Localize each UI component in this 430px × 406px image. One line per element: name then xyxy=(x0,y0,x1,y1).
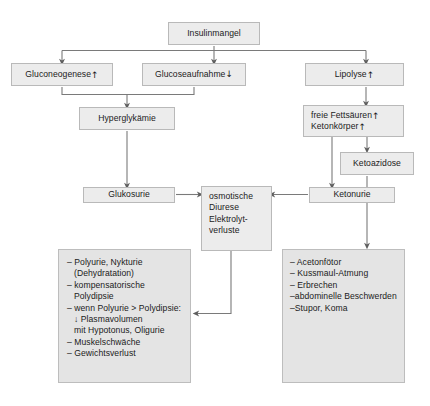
list-item: – kompensatorische xyxy=(67,280,184,291)
node-gluconeogenese-label: Gluconeogenese xyxy=(25,69,91,79)
node-ketonkoerper-row: Ketonkörper↑ xyxy=(311,121,397,132)
node-osmotische-diurese-line-1: osmotische xyxy=(209,191,253,201)
node-glucoseaufnahme-content: Glucoseaufnahme↓ xyxy=(155,69,233,80)
node-freie-fettsaeuren-label: freie Fettsäuren xyxy=(311,110,372,120)
node-gluconeogenese[interactable]: Gluconeogenese↑ xyxy=(11,63,113,86)
increase-arrow-icon: ↑ xyxy=(372,111,380,121)
node-hyperglykaemie-label: Hyperglykämie xyxy=(98,113,155,124)
node-osmotische-diurese-line-3: Elektrolyt- xyxy=(209,214,248,224)
flowchart-diagram: Insulinmangel Gluconeogenese↑ Glucoseauf… xyxy=(0,0,430,406)
node-freie-fettsaeuren-ketonkoerper[interactable]: freie Fettsäuren↑ Ketonkörper↑ xyxy=(303,105,404,137)
node-insulinmangel-label: Insulinmangel xyxy=(187,28,241,39)
node-osmotische-diurese-line-2: Diurese xyxy=(209,202,239,212)
list-item: mit Hypotonus, Oligurie xyxy=(67,325,184,336)
node-lipolyse-label: Lipolyse xyxy=(335,69,367,79)
list-item: – Kussmaul-Atmung xyxy=(290,268,399,279)
list-item: –abdominelle Beschwerden xyxy=(290,291,399,302)
node-freie-fettsaeuren-row: freie Fettsäuren↑ xyxy=(311,110,397,121)
node-lipolyse[interactable]: Lipolyse↑ xyxy=(305,63,404,86)
node-ketonkoerper-label: Ketonkörper xyxy=(311,121,358,131)
list-item: – Acetonfötor xyxy=(290,257,399,268)
list-item: – Muskelschwäche xyxy=(67,337,184,348)
node-ketoazidose[interactable]: Ketoazidose xyxy=(340,152,414,175)
node-gluconeogenese-content: Gluconeogenese↑ xyxy=(25,69,98,80)
list-item: (Dehydratation) xyxy=(67,268,184,279)
left-symptom-box[interactable]: – Polyurie, Nykturie (Dehydratation) – k… xyxy=(58,249,191,383)
list-item: – Polyurie, Nykturie xyxy=(67,257,184,268)
node-ketoazidose-label: Ketoazidose xyxy=(353,158,401,169)
edge-osmotische-diurese-to-left-symptoms xyxy=(196,251,231,314)
list-item: Polydipsie xyxy=(67,291,184,302)
list-item: – Gewichtsverlust xyxy=(67,348,184,359)
list-item: – Erbrechen xyxy=(290,280,399,291)
list-item: – wenn Polyurie > Polydipsie: xyxy=(67,303,184,314)
edge-glucoseaufnahme-to-merge xyxy=(127,87,194,95)
node-glucoseaufnahme[interactable]: Glucoseaufnahme↓ xyxy=(142,63,246,86)
increase-arrow-icon: ↑ xyxy=(358,122,366,132)
node-osmotische-diurese[interactable]: osmotische Diurese Elektrolyt- verluste xyxy=(201,186,272,251)
node-glucoseaufnahme-label: Glucoseaufnahme xyxy=(155,69,226,79)
right-symptom-box[interactable]: – Acetonfötor – Kussmaul-Atmung – Erbrec… xyxy=(282,249,405,383)
list-item: ↓ Plasmavolumen xyxy=(67,314,184,325)
node-osmotische-diurese-line-4: verluste xyxy=(209,225,240,235)
decrease-arrow-icon: ↓ xyxy=(225,69,233,79)
edge-gluconeogenese-to-merge xyxy=(62,87,127,95)
node-insulinmangel[interactable]: Insulinmangel xyxy=(168,22,260,45)
node-lipolyse-content: Lipolyse↑ xyxy=(335,69,375,80)
node-ketonurie[interactable]: Ketonurie xyxy=(309,187,395,203)
increase-arrow-icon: ↑ xyxy=(367,70,375,80)
node-glukosurie[interactable]: Glukosurie xyxy=(83,187,175,203)
node-hyperglykaemie[interactable]: Hyperglykämie xyxy=(79,107,175,130)
list-item: –Stupor, Koma xyxy=(290,303,399,314)
node-ketonurie-label: Ketonurie xyxy=(333,189,370,200)
increase-arrow-icon: ↑ xyxy=(91,70,99,80)
node-glukosurie-label: Glukosurie xyxy=(108,189,150,200)
